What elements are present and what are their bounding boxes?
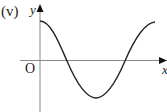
x-axis-arrow-icon bbox=[159, 57, 167, 64]
cosine-curve bbox=[40, 21, 155, 98]
y-axis-arrow-icon bbox=[37, 4, 44, 12]
cosine-graph bbox=[0, 0, 167, 112]
